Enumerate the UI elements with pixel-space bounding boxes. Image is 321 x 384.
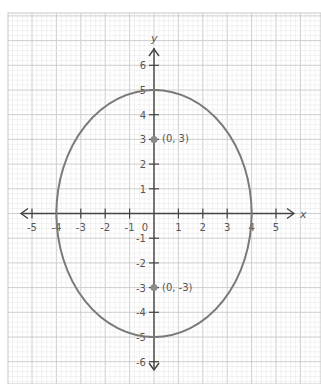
x-tick-label: 1 [175, 222, 181, 233]
y-tick-label: 2 [140, 159, 146, 170]
y-tick-label: 1 [140, 184, 146, 195]
x-tick-label: -2 [100, 222, 110, 233]
y-tick-label: -4 [136, 307, 146, 318]
y-tick-label: -6 [136, 357, 146, 368]
graph-paper-grid [8, 13, 321, 384]
coordinate-axes [21, 48, 294, 370]
x-tick-label: -1 [125, 222, 135, 233]
x-tick-label: -3 [76, 222, 86, 233]
focus-point-label: (0, -3) [162, 282, 193, 293]
x-tick-label: -5 [27, 222, 37, 233]
x-tick-label: 5 [273, 222, 279, 233]
y-tick-label: -3 [136, 283, 146, 294]
y-axis-label: y [150, 32, 158, 45]
y-tick-label: -2 [136, 258, 146, 269]
y-tick-label: 4 [140, 110, 146, 121]
y-tick-label: -1 [136, 233, 146, 244]
x-tick-label: 0 [142, 222, 148, 233]
focus-point-label: (0, 3) [162, 133, 189, 144]
x-axis-label: x [299, 208, 307, 221]
focus-point-marker [151, 284, 158, 291]
ellipse-graph: -5-4-3-2-1012345654321-1-2-3-4-5-6 (0, 3… [0, 0, 321, 384]
y-tick-label: -5 [136, 332, 146, 343]
y-tick-label: 6 [140, 60, 146, 71]
x-tick-label: 2 [200, 222, 206, 233]
x-tick-label: 3 [224, 222, 230, 233]
focus-point-marker [151, 136, 158, 143]
y-tick-label: 3 [140, 134, 146, 145]
